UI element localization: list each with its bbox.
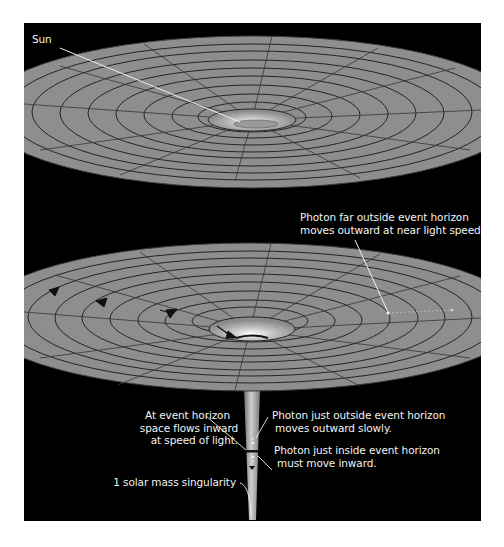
photon-far-label: Photon far outside event horizon moves o… — [300, 211, 481, 236]
event-horizon-label: At event horizon space flows inward at s… — [118, 409, 238, 447]
photon-outside-label: Photon just outside event horizon moves … — [272, 409, 445, 434]
photon-inside-label-line-2: must move inward. — [274, 457, 440, 470]
photon-far-label-line-1: Photon far outside event horizon — [300, 211, 481, 224]
photon-inside-dot — [252, 456, 255, 459]
sun-spacetime-disk — [24, 36, 481, 188]
photon-outside-dot — [252, 442, 255, 445]
black-hole-throat — [244, 388, 260, 520]
photon-outside-label-line-2: moves outward slowly. — [272, 422, 445, 435]
sun-label: Sun — [32, 33, 52, 46]
photon-inside-pointer-line — [258, 456, 272, 470]
event-horizon-label-line-3: at speed of light. — [118, 434, 238, 447]
singularity-label: 1 solar mass singularity — [84, 476, 236, 489]
event-horizon-ring — [246, 450, 259, 453]
black-hole-spacetime-disk — [24, 243, 481, 391]
event-horizon-label-line-2: space flows inward — [118, 422, 238, 435]
photon-inside-label-line-1: Photon just inside event horizon — [274, 444, 440, 457]
diagram-panel: Sun Photon far outside event horizon mov… — [24, 23, 481, 521]
photon-outside-label-line-1: Photon just outside event horizon — [272, 409, 445, 422]
photon-inside-label: Photon just inside event horizon must mo… — [274, 444, 440, 469]
event-horizon-label-line-1: At event horizon — [118, 409, 238, 422]
photon-far-label-line-2: moves outward at near light speed. — [300, 224, 481, 237]
